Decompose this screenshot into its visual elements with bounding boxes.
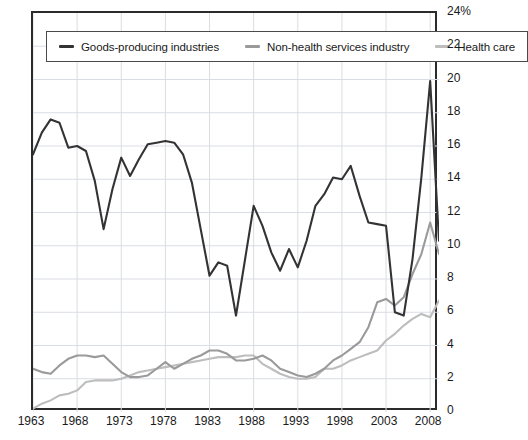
legend-label-health-care: Health care bbox=[457, 41, 515, 53]
x-tick-label: 1988 bbox=[238, 414, 265, 428]
x-tick-label: 1983 bbox=[194, 414, 221, 428]
y-tick-label: 10 bbox=[447, 237, 460, 251]
plot-area bbox=[31, 11, 437, 410]
y-tick-label: 14 bbox=[447, 170, 460, 184]
cropped-title-sliver bbox=[100, 0, 360, 2]
y-tick-label: 8 bbox=[447, 270, 454, 284]
y-tick-label: 2 bbox=[447, 370, 454, 384]
y-tick-label: 16 bbox=[447, 137, 460, 151]
x-tick-label: 1968 bbox=[62, 414, 89, 428]
series-line bbox=[33, 81, 439, 315]
x-tick-label: 1993 bbox=[282, 414, 309, 428]
y-tick-label: 6 bbox=[447, 303, 454, 317]
y-tick-label: 18 bbox=[447, 104, 460, 118]
x-tick-label: 1973 bbox=[106, 414, 133, 428]
x-tick-label: 2003 bbox=[371, 414, 398, 428]
x-tick-label: 1978 bbox=[150, 414, 177, 428]
series-line bbox=[33, 301, 439, 409]
y-tick-label: 22 bbox=[447, 37, 460, 51]
y-tick-label: 12 bbox=[447, 204, 460, 218]
y-tick-label: 20 bbox=[447, 71, 460, 85]
series-lines bbox=[33, 13, 439, 412]
y-tick-label: 4 bbox=[447, 337, 454, 351]
x-tick-label: 1998 bbox=[327, 414, 354, 428]
x-tick-label: 2008 bbox=[415, 414, 442, 428]
x-tick-label: 1963 bbox=[18, 414, 45, 428]
y-tick-label: 0 bbox=[447, 403, 454, 417]
series-line bbox=[33, 222, 439, 377]
y-tick-label: 24% bbox=[447, 4, 471, 18]
